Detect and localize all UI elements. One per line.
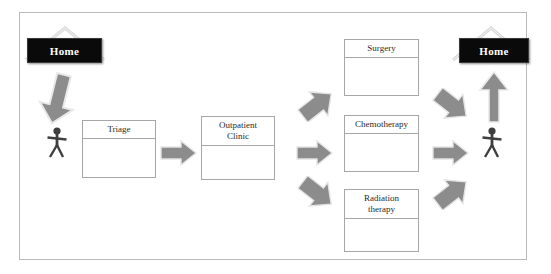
stick-figure-icon xyxy=(45,126,69,158)
process-box-outpatient-label: Outpatient Clinic xyxy=(202,117,274,146)
process-box-triage-label: Triage xyxy=(83,121,155,139)
home-sign-start: Home xyxy=(19,16,111,64)
patient-figure-start xyxy=(45,126,69,158)
arrow-home-to-patient xyxy=(33,70,83,128)
arrow-patient-to-home xyxy=(477,70,511,124)
process-box-radiation: Radiation therapy xyxy=(344,189,419,252)
stick-figure-icon xyxy=(480,126,504,158)
arrow-chemo-to-patient xyxy=(431,139,471,167)
process-box-surgery: Surgery xyxy=(344,39,419,96)
home-label-start: Home xyxy=(50,45,79,57)
arrow-outpatient-to-radiation xyxy=(296,176,338,210)
process-box-chemotherapy: Chemotherapy xyxy=(344,115,419,172)
arrow-outpatient-to-surgery xyxy=(296,88,338,122)
arrow-surgery-to-patient xyxy=(431,88,473,122)
process-box-surgery-label: Surgery xyxy=(345,40,418,58)
home-label-end: Home xyxy=(479,45,508,57)
home-label-plate-start: Home xyxy=(27,38,102,63)
process-box-radiation-label: Radiation therapy xyxy=(345,190,418,219)
arrow-radiation-to-patient xyxy=(431,176,473,210)
arrow-triage-to-outpatient xyxy=(159,139,199,167)
arrow-outpatient-to-chemo xyxy=(295,139,335,167)
process-box-outpatient: Outpatient Clinic xyxy=(201,116,275,180)
patient-figure-end xyxy=(480,126,504,158)
process-box-chemotherapy-label: Chemotherapy xyxy=(345,116,418,134)
home-sign-end: Home xyxy=(444,16,536,64)
home-label-plate-end: Home xyxy=(459,38,529,63)
diagram-canvas: Home Home Triage xyxy=(0,0,551,274)
process-box-triage: Triage xyxy=(82,120,156,178)
